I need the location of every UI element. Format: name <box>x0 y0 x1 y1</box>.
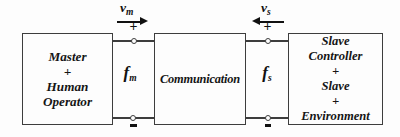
fs-subscript: s <box>268 73 272 83</box>
master-block-line: Operator <box>23 94 112 109</box>
slave-block-line: + <box>289 94 382 109</box>
communication-block-label: Communication <box>155 72 245 87</box>
slave-block-line: + <box>289 64 382 79</box>
minus-sign-slave <box>265 124 272 127</box>
slave-block: Slave Controller + Slave + Environment <box>288 33 383 125</box>
fm-subscript: m <box>129 73 136 83</box>
fm-signal-label: fm <box>116 63 144 83</box>
master-block: Master + Human Operator <box>22 33 113 125</box>
fs-signal-label: fs <box>253 63 281 83</box>
slave-block-line: Controller <box>289 49 382 64</box>
terminal-circle-slave-bottom <box>265 115 271 121</box>
vs-subscript: s <box>267 7 271 17</box>
master-block-line: Master <box>23 49 112 64</box>
slave-block-line: Environment <box>289 109 382 124</box>
vm-arrow-shaft <box>117 21 141 23</box>
terminal-circle-slave-top <box>265 38 271 44</box>
terminal-circle-master-bottom <box>130 115 136 121</box>
communication-block: Communication <box>154 33 246 125</box>
arrow-left-icon <box>252 17 260 25</box>
slave-block-line: Slave <box>289 79 382 94</box>
master-block-line: + <box>23 64 112 79</box>
vm-subscript: m <box>126 7 133 17</box>
vs-arrow-shaft <box>260 21 284 23</box>
vm-signal-label: vm <box>120 1 133 19</box>
terminal-circle-master-top <box>131 38 137 44</box>
master-block-line: Human <box>23 79 112 94</box>
teleoperation-block-diagram: Master + Human Operator Communication Sl… <box>0 0 400 137</box>
vs-signal-label: vs <box>261 1 271 19</box>
arrow-right-icon <box>140 17 148 25</box>
minus-sign-master <box>130 124 137 127</box>
slave-block-line: Slave <box>289 34 382 49</box>
